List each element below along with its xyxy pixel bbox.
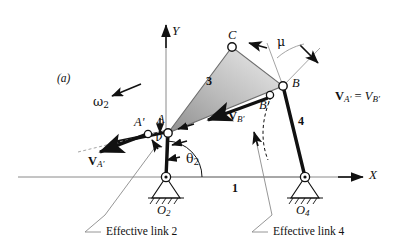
va-prime-subscript: A' xyxy=(97,159,104,169)
axis-y-label: Y xyxy=(172,24,179,37)
point-label-b-prime: B' xyxy=(259,99,269,112)
point-label-a: A xyxy=(157,113,165,126)
vb-prime-subscript: B' xyxy=(237,114,244,124)
point-label-b: B xyxy=(292,77,300,90)
vb-prime-symbol: V xyxy=(228,109,237,123)
equation-equals: = xyxy=(351,89,364,103)
crank-link-2 xyxy=(166,133,168,177)
caption-effective-link-2: Effective link 2 xyxy=(106,226,177,238)
joint-b xyxy=(279,82,287,90)
point-label-a-prime: A' xyxy=(134,116,144,129)
point-label-c: C xyxy=(228,29,236,42)
equation-lhs-symbol: V xyxy=(335,89,344,103)
link-label-3: 3 xyxy=(206,75,212,87)
panel-label: (a) xyxy=(57,73,70,85)
omega2-symbol: ω xyxy=(93,94,103,109)
theta2-symbol: θ xyxy=(186,151,194,166)
omega2-label: ω2 xyxy=(93,96,109,110)
theta2-label: θ2 xyxy=(186,153,199,167)
velocity-label-b-prime: VB' xyxy=(228,110,244,124)
link-label-1: 1 xyxy=(232,182,238,194)
o2-subscript: 2 xyxy=(166,208,171,218)
axis-x-label: X xyxy=(369,168,377,181)
point-label-o4: O4 xyxy=(296,204,310,218)
mu-label: μ xyxy=(277,36,285,49)
output-link-4 xyxy=(283,86,305,177)
omega2-arrow xyxy=(112,84,141,96)
equation-rhs-subscript: B' xyxy=(372,94,379,104)
o4-base: O xyxy=(296,203,305,217)
leader-effective-link-4 xyxy=(252,132,272,232)
o2-base: O xyxy=(157,203,166,217)
point-label-o2: O2 xyxy=(157,204,171,218)
velocity-equation: VA' = VB' xyxy=(335,90,380,104)
kinematics-figure: (a) Y X C A A' B B' O2 O4 3 4 1 ω2 θ2 μ … xyxy=(0,0,416,246)
velocity-vector-a-prime xyxy=(100,134,147,152)
o4-subscript: 4 xyxy=(305,208,310,218)
theta2-subscript: 2 xyxy=(194,157,200,167)
joint-a-prime xyxy=(144,130,151,137)
nu-label: ν xyxy=(155,131,163,144)
joint-c xyxy=(228,43,236,51)
omega2-subscript: 2 xyxy=(103,100,109,110)
joint-a xyxy=(164,129,172,137)
va-prime-symbol: V xyxy=(88,154,97,168)
link-label-4: 4 xyxy=(298,115,304,127)
velocity-label-a-prime: VA' xyxy=(88,155,104,169)
linkage-drawing xyxy=(0,0,416,246)
caption-effective-link-4: Effective link 4 xyxy=(273,226,344,238)
coupler-link-3 xyxy=(168,47,283,133)
